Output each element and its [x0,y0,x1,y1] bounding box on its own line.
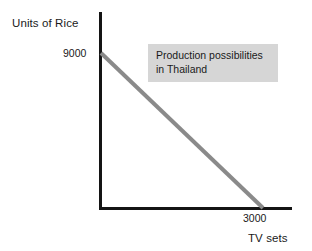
y-axis-tick-label-9000: 9000 [63,47,86,59]
annotation-line-2: in Thailand [156,63,271,77]
x-axis-tick-label-3000: 3000 [243,212,266,224]
y-axis-label: Units of Rice [12,17,79,29]
x-axis-label: TV sets [248,232,288,244]
annotation-line-1: Production possibilities [156,49,271,63]
annotation-box: Production possibilities in Thailand [148,44,278,82]
ppf-chart-figure: Units of Rice 9000 3000 TV sets Producti… [0,0,312,251]
